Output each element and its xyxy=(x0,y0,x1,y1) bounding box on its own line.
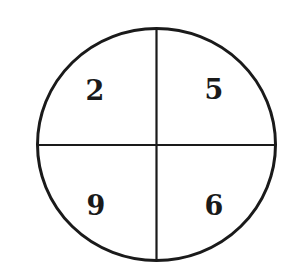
quadrant-bottom-right-number: 6 xyxy=(205,190,224,221)
quadrant-circle-diagram: 2 5 9 6 xyxy=(0,0,287,277)
quadrant-bottom-left-number: 9 xyxy=(87,190,106,221)
quadrant-top-right-number: 5 xyxy=(205,74,224,105)
quadrant-top-left-number: 2 xyxy=(86,75,105,106)
